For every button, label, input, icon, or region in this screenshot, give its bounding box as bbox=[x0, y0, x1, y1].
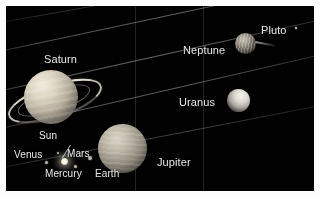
label-sun: Sun bbox=[39, 130, 57, 141]
uranus-planet bbox=[227, 89, 250, 112]
saturn-planet bbox=[24, 70, 78, 124]
neptune-planet bbox=[235, 33, 256, 54]
label-saturn: Saturn bbox=[44, 53, 77, 65]
space-background: Saturn Jupiter Uranus Neptune Pluto Sun … bbox=[6, 6, 314, 191]
label-uranus: Uranus bbox=[179, 96, 215, 108]
neptune-glow-streak bbox=[255, 41, 277, 47]
mars-planet bbox=[57, 152, 59, 154]
label-jupiter: Jupiter bbox=[157, 156, 191, 168]
label-venus: Venus bbox=[14, 149, 42, 160]
label-mercury: Mercury bbox=[45, 168, 82, 179]
label-earth: Earth bbox=[95, 168, 119, 179]
label-pluto: Pluto bbox=[261, 24, 287, 36]
jupiter-planet bbox=[98, 124, 147, 173]
label-mars: Mars bbox=[67, 148, 90, 159]
label-neptune: Neptune bbox=[183, 44, 225, 56]
venus-planet bbox=[45, 161, 48, 164]
figure-frame: Saturn Jupiter Uranus Neptune Pluto Sun … bbox=[0, 0, 320, 197]
saturn-group bbox=[10, 62, 106, 134]
pluto-planet bbox=[295, 27, 297, 29]
